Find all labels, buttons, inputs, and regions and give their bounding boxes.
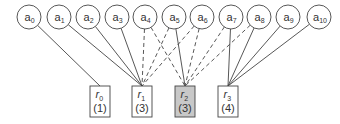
label-subscript: 8 — [261, 17, 265, 24]
resource-r2: r2(3) — [175, 86, 195, 117]
node-a1: a1 — [47, 5, 71, 29]
label-subscript: 4 — [147, 17, 151, 24]
label-subscript: 0 — [99, 95, 103, 102]
node-a10: a10 — [307, 5, 331, 29]
resource-r1: r1(3) — [132, 86, 152, 117]
bottom-nodes-layer: r0(1)r1(3)r2(3)r3(4) — [90, 86, 238, 117]
node-a9: a9 — [276, 5, 300, 29]
edge-a10-r3 — [228, 24, 309, 86]
label-subscript: 3 — [227, 95, 231, 102]
label-subscript: 0 — [31, 17, 35, 24]
edge-a4-r1 — [142, 29, 144, 86]
resource-count: (3) — [135, 102, 148, 114]
label-subscript: 9 — [290, 17, 294, 24]
label-subscript: 10 — [319, 17, 327, 24]
label-subscript: 7 — [233, 17, 237, 24]
node-a3: a3 — [105, 5, 129, 29]
node-a6: a6 — [190, 5, 214, 29]
edge-a6-r2 — [185, 29, 199, 86]
node-a7: a7 — [219, 5, 243, 29]
bipartite-diagram: a0a1a2a3a4a5a6a7a8a9a10 r0(1)r1(3)r2(3)r… — [0, 0, 340, 124]
label-subscript: 1 — [61, 17, 65, 24]
resource-r0: r0(1) — [90, 86, 110, 117]
label-subscript: 2 — [90, 17, 94, 24]
resource-count: (3) — [178, 102, 191, 114]
edge-a7-r3 — [228, 29, 230, 86]
edge-a9-r3 — [228, 26, 280, 86]
edge-a6-r1 — [142, 26, 194, 86]
resource-count: (1) — [93, 102, 106, 114]
label-subscript: 3 — [119, 17, 123, 24]
label-subscript: 2 — [184, 95, 188, 102]
node-a4: a4 — [133, 5, 157, 29]
edge-a8-r3 — [228, 28, 254, 86]
node-a8: a8 — [247, 5, 271, 29]
edge-a0-r0 — [38, 25, 100, 86]
resource-r3: r3(4) — [218, 86, 238, 117]
edge-a5-r1 — [142, 28, 169, 86]
label-subscript: 1 — [141, 95, 145, 102]
top-nodes-layer: a0a1a2a3a4a5a6a7a8a9a10 — [17, 5, 331, 29]
node-a0: a0 — [17, 5, 41, 29]
edges-layer — [38, 24, 310, 86]
node-a2: a2 — [76, 5, 100, 29]
edge-a2-r1 — [95, 26, 142, 86]
label-subscript: 6 — [204, 17, 208, 24]
label-subscript: 5 — [176, 17, 180, 24]
resource-count: (4) — [221, 102, 234, 114]
edge-a7-r2 — [185, 27, 224, 86]
node-a5: a5 — [162, 5, 186, 29]
